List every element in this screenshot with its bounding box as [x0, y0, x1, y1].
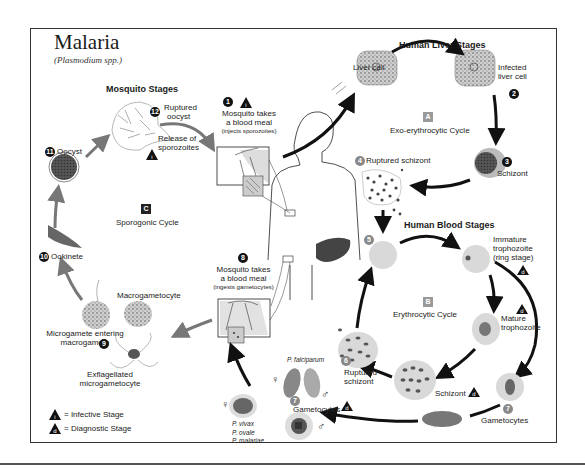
gametocyte-right-icon [496, 373, 524, 401]
cycle-a-badge: A [423, 112, 433, 122]
exflagellated-label: Exflagellated microgametocyte [70, 370, 150, 388]
stage-9-line2: macrogamete [40, 338, 130, 347]
species-malariae: P. malariae [232, 437, 264, 446]
stage-12-number: 12 [150, 107, 160, 117]
species-vivax: P. vivax [232, 420, 264, 429]
liver-cell-icon [332, 51, 397, 94]
cycle-b-badge: B [423, 297, 433, 307]
infected-liver-cell-icon [455, 50, 495, 86]
stage-2-line2: liver cell [498, 72, 527, 81]
legend-diagnostic-triangle-icon: d [49, 423, 61, 434]
cycle-c-label: Sporogonic Cycle [116, 218, 179, 227]
svg-text:d: d [472, 391, 475, 397]
exflagellated-line2: microgametocyte [70, 379, 150, 388]
svg-text:i: i [54, 414, 55, 420]
other-species-list: P. vivax P. ovale P. malariae [232, 420, 264, 446]
svg-text:d: d [345, 405, 348, 411]
falciparum-label: P. falciparum [287, 356, 324, 363]
stage-1-line2: a blood meal [214, 118, 284, 127]
diagnostic-triangle-ring-icon: d [517, 265, 529, 275]
stage-12-label: Ruptured oocyst [164, 103, 197, 121]
mature-line2: trophozoite [501, 323, 541, 332]
stage-7-right-number: 7 [503, 404, 513, 414]
stage-1-number: 1 [223, 97, 233, 107]
ookinete-icon [48, 225, 82, 248]
stage-1-line1: Mosquito takes [214, 109, 284, 118]
mosquito-inject-panel [217, 147, 290, 213]
bottom-rule [0, 463, 585, 465]
immature-line2: trophozoite [493, 244, 533, 253]
stage-7-right-label: Gametocytes [481, 416, 528, 425]
diagnostic-triangle-gametocytes-icon: d [341, 401, 353, 411]
blood-schizont-label: Schizont [435, 389, 466, 398]
female-symbol-vivax: ♀ [221, 398, 229, 410]
stage-8-label: Mosquito takes a blood meal (ingests gam… [206, 265, 281, 291]
cycle-a-label: Exo-erythrocytic Cycle [390, 126, 470, 135]
stage-2-number: 2 [509, 89, 519, 99]
stage-8-line2: a blood meal [206, 274, 281, 283]
stage-8-line3: (ingests gametocytes) [206, 283, 281, 290]
diagram-subtitle: (Plasmodium spp.) [54, 55, 122, 65]
cycle-c-badge: C [141, 204, 151, 214]
female-symbol-falciparum: ♀ [271, 373, 279, 385]
legend-infective-triangle-icon: i [49, 409, 61, 420]
stage-10-label: Ookinete [51, 252, 83, 261]
legend-diagnostic-label: = Diagnostic Stage [64, 424, 131, 433]
svg-text:d: d [521, 269, 524, 275]
stage-12-line3: Release of [158, 134, 199, 143]
gametocyte-banana-icon [422, 411, 462, 427]
immature-line3: (ring stage) [493, 253, 533, 262]
male-symbol-falciparum: ♂ [321, 388, 329, 400]
stage-3-number: 3 [502, 157, 512, 167]
male-symbol-vivax: ♂ [317, 420, 325, 432]
stage-1-label: Mosquito takes a blood meal (injects spo… [214, 109, 284, 135]
stage-11-label: Oocyst [57, 147, 82, 156]
legend-infective-label: = Infective Stage [64, 410, 124, 419]
stage-6-label: Ruptured schizont [344, 368, 377, 386]
mosquito-stages-header: Mosquito Stages [106, 84, 178, 94]
ring-stage-icon [462, 245, 490, 273]
stage-5-number: 5 [364, 235, 374, 245]
stage-3-label: Schizont [497, 169, 528, 178]
rbc-5-icon [369, 241, 397, 269]
immature-trophozoite-label: Immature trophozoite (ring stage) [493, 235, 533, 263]
blood-stages-header: Human Blood Stages [404, 220, 495, 230]
stage-12-line1: Ruptured [164, 103, 197, 112]
svg-text:d: d [53, 428, 56, 434]
stage-9-line1: Microgamete entering [40, 329, 130, 338]
diagnostic-triangle-mature-icon: d [516, 304, 528, 314]
macrogametocyte-icon [124, 301, 152, 327]
mature-trophozoite-label: Mature trophozoite [501, 314, 541, 332]
microgamete-entering-icon [82, 280, 110, 329]
immature-line1: Immature [493, 235, 533, 244]
stage-4-number: 4 [355, 156, 365, 166]
sporozoite-release-label: Release of sporozoites [158, 134, 199, 152]
svg-text:i: i [245, 102, 246, 108]
liver-cell-label: Liver cell [353, 63, 385, 72]
stage-9-number: 9 [99, 339, 109, 349]
infective-triangle-s12-icon: i [146, 149, 158, 160]
blood-schizont-icon [394, 360, 436, 400]
stage-2-label: Infected liver cell [498, 63, 527, 81]
stage-4-label: Ruptured schizont [366, 156, 430, 165]
ruptured-schizont-icon [362, 169, 403, 216]
stage-7-left-label: Gametocytes [293, 405, 340, 414]
stage-6-line2: schizont [344, 377, 377, 386]
falciparum-gametocytes-icon [280, 366, 322, 399]
stage-10-number: 10 [39, 252, 49, 262]
stage-2-line1: Infected [498, 63, 527, 72]
infective-triangle-s1-icon: i [240, 97, 252, 108]
cycle-b-label: Erythrocytic Cycle [393, 310, 457, 319]
stage-12-line4: sporozoites [158, 143, 199, 152]
stage-11-number: 11 [45, 147, 55, 157]
stage-9-label: Microgamete entering macrogamete [40, 329, 130, 347]
mature-trophozoite-icon [472, 313, 500, 345]
stage-6-line1: Ruptured [344, 368, 377, 377]
species-ovale: P. ovale [232, 429, 264, 438]
bite-site-lower [283, 256, 293, 262]
mature-line1: Mature [501, 314, 541, 323]
stage-1-line3: (injects sporozoites) [214, 127, 284, 134]
diagram-title: Malaria [54, 30, 119, 54]
stage-6-number: 6 [341, 356, 351, 366]
diagnostic-triangle-schizont-icon: d [468, 387, 480, 397]
